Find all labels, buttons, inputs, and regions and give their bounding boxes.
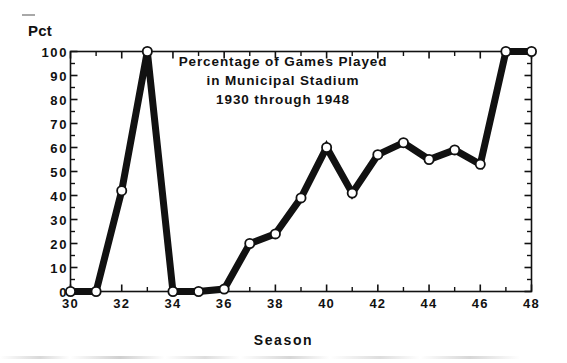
x-tick-label: 30 <box>49 296 93 311</box>
x-tick-label: 36 <box>202 296 246 311</box>
x-tick-label: 48 <box>510 296 554 311</box>
x-tick-label: 44 <box>407 296 451 311</box>
chart-figure: Pct 0102030405060708090100 3032343638404… <box>0 0 567 363</box>
chart-title-line-1: Percentage of Games Played <box>148 52 418 71</box>
x-tick-label: 46 <box>458 296 502 311</box>
chart-title-line-2: in Municipal Stadium <box>148 71 418 90</box>
x-tick-label: 32 <box>100 296 144 311</box>
x-tick-label: 42 <box>356 296 400 311</box>
x-tick-label: 38 <box>253 296 297 311</box>
x-tick-label: 40 <box>305 296 349 311</box>
x-tick-label: 34 <box>151 296 195 311</box>
x-axis-title: Season <box>0 332 567 348</box>
chart-title: Percentage of Games Played in Municipal … <box>148 52 418 109</box>
scan-artifact-bottom-band <box>0 356 567 359</box>
chart-title-line-3: 1930 through 1948 <box>148 90 418 109</box>
